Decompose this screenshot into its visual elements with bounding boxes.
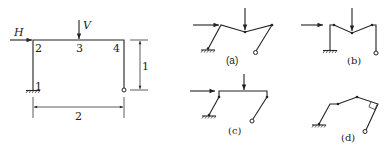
node-label-3: 3 [76, 42, 83, 55]
load-label-v: V [83, 19, 92, 32]
pin-support-icon [250, 119, 254, 123]
frame-diagram: H V 1 2 3 4 1 2 [0, 0, 389, 146]
width-dimension-label: 2 [75, 110, 82, 123]
mechanism-members [208, 25, 272, 51]
height-dimension: 1 [130, 40, 149, 90]
pin-support-icon [374, 51, 378, 55]
pin-support-icon [122, 88, 126, 92]
pin-support-icon [254, 51, 258, 55]
mechanism-label-a: (a) [226, 55, 238, 66]
mechanism-b: (b) [301, 8, 378, 66]
hinge-icon [333, 24, 336, 27]
hinge-icon [207, 47, 210, 50]
fixed-support-icon [201, 50, 215, 53]
mechanism-a: (a) [193, 8, 273, 66]
hinge-icon [218, 96, 221, 99]
load-label-h: H [13, 26, 24, 39]
width-dimension: 2 [33, 97, 124, 123]
right-link [253, 97, 267, 119]
left-link [209, 97, 219, 115]
main-frame: H V 1 2 3 4 1 2 [10, 19, 149, 123]
mechanism-members [330, 25, 376, 51]
mechanism-d: (d) [312, 96, 378, 143]
pin-support-icon [363, 130, 367, 134]
hinge-icon [266, 96, 269, 99]
node-label-4: 4 [113, 42, 120, 55]
fixed-support-icon [312, 125, 326, 128]
mechanism-c: (c) [190, 74, 268, 136]
hinge-icon [337, 103, 340, 106]
node-label-2: 2 [35, 42, 42, 55]
height-dimension-label: 1 [142, 60, 149, 73]
hinge-icon [351, 32, 354, 35]
hinge-icon [371, 24, 374, 27]
fixed-support-icon [202, 116, 216, 119]
mechanism-members [319, 97, 378, 130]
node-label-1: 1 [35, 80, 42, 93]
mechanism-label-d: (d) [341, 132, 355, 143]
fixed-support-icon [323, 51, 337, 54]
hinge-icon [271, 24, 274, 27]
hinge-icon [244, 31, 247, 34]
hinge-icon [356, 96, 359, 99]
mechanism-beam [219, 91, 267, 97]
mechanism-label-c: (c) [228, 125, 242, 136]
mechanism-label-b: (b) [347, 55, 361, 66]
